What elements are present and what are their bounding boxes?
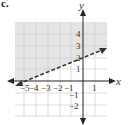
x-axis-arrow-right [109,78,116,84]
x-axis-label: x [115,75,121,87]
y-tick: −1 [69,90,79,100]
y-tick: −2 [69,101,79,111]
y-tick: 4 [76,29,81,39]
y-axis-label: y [78,0,84,11]
y-tick: 2 [76,53,81,63]
x-axis-arrow-left [7,78,14,84]
y-axis-arrow-down [80,118,86,125]
x-tick: −4 [29,83,39,93]
inequality-graph: x y −5 −4 −3 −2 −1 1 4 3 2 1 −1 −2 [0,0,129,125]
x-tick: −3 [41,83,51,93]
shaded-region [15,22,107,81]
line-arrow-up [99,48,107,54]
y-tick: 1 [76,64,81,74]
x-tick: −2 [53,83,63,93]
x-tick: 1 [92,83,97,93]
y-tick: 3 [76,41,81,51]
